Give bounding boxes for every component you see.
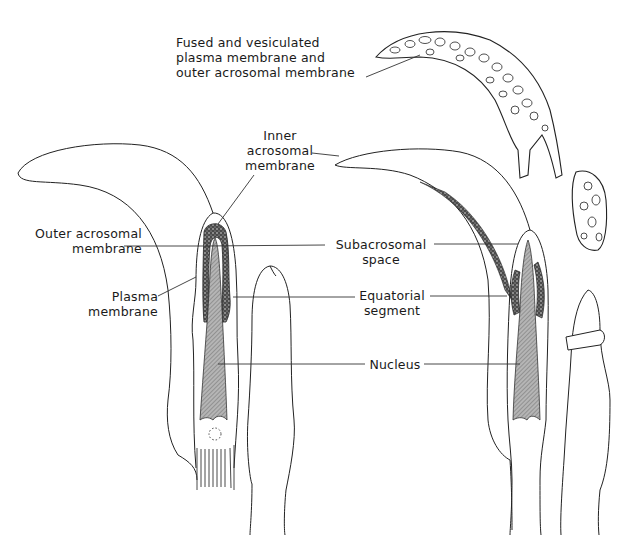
- centriole: [209, 428, 221, 440]
- vesiculated-membranes: [376, 32, 607, 251]
- label-line: plasma membrane and: [176, 50, 355, 65]
- label-line: membrane: [238, 158, 322, 173]
- label-fused-vesiculated-membranes: Fused and vesiculated plasma membrane an…: [176, 35, 355, 80]
- equatorial-segment-stipple-right: [534, 262, 544, 318]
- vesicle-band-large: [376, 32, 562, 178]
- label-nucleus: Nucleus: [364, 357, 426, 372]
- sperm-side-view-left: [247, 266, 294, 535]
- intact-sperm-panel: [18, 144, 294, 535]
- label-plasma-membrane: Plasma membrane: [80, 289, 158, 319]
- diagram-canvas: [0, 0, 631, 550]
- tail-fibres: [197, 445, 234, 490]
- label-line: Fused and vesiculated: [176, 35, 355, 50]
- label-line: space: [328, 252, 434, 267]
- label-line: Outer acrosomal: [10, 226, 142, 241]
- label-subacrosomal-space: Subacrosomal space: [328, 237, 434, 267]
- vesicle-fragment-small: [572, 171, 606, 250]
- inner-membrane-collar: [566, 330, 605, 350]
- label-line: acrosomal: [238, 143, 322, 158]
- label-line: Plasma: [80, 289, 158, 304]
- label-line: outer acrosomal membrane: [176, 65, 355, 80]
- label-equatorial-segment: Equatorial segment: [352, 288, 432, 318]
- sperm-side-view-right: [561, 290, 610, 535]
- label-inner-acrosomal-membrane: Inner acrosomal membrane: [238, 128, 322, 173]
- label-line: membrane: [80, 304, 158, 319]
- label-line: membrane: [10, 241, 142, 256]
- label-line: Subacrosomal: [328, 237, 434, 252]
- label-line: Inner: [238, 128, 322, 143]
- equatorial-segment-stipple-left: [511, 270, 520, 315]
- label-line: Equatorial: [352, 288, 432, 303]
- label-line: Nucleus: [364, 357, 426, 372]
- label-outer-acrosomal-membrane: Outer acrosomal membrane: [10, 226, 142, 256]
- label-line: segment: [352, 303, 432, 318]
- reacted-sperm-panel: [335, 149, 610, 535]
- sperm-head-outline-right: [335, 149, 530, 530]
